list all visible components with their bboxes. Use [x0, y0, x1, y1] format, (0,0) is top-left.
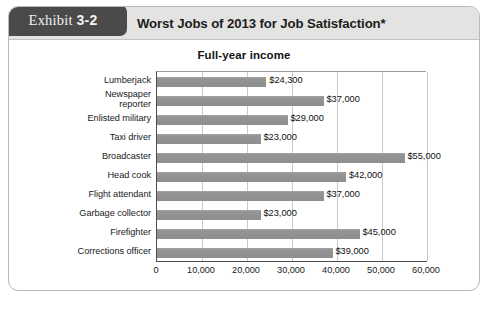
bar-value-label: $39,000 [336, 246, 369, 256]
category-axis: LumberjackNewspaper reporterEnlisted mil… [9, 69, 156, 261]
bar [157, 115, 288, 125]
category-label: Enlisted military [88, 114, 151, 123]
bar-value-label: $37,000 [327, 189, 360, 199]
gridline [427, 72, 428, 261]
bar [157, 248, 333, 258]
x-tick-label: 20,000 [232, 265, 260, 275]
bar [157, 210, 261, 220]
exhibit-tab-label: Exhibit 3-2 [29, 12, 98, 29]
bar [157, 191, 324, 201]
bar-value-label: $55,000 [408, 151, 441, 161]
x-axis-line [156, 261, 427, 262]
exhibit-card: Exhibit 3-2 Worst Jobs of 2013 for Job S… [8, 6, 480, 291]
exhibit-number: 3-2 [77, 12, 98, 28]
category-label: Head cook [108, 171, 151, 180]
bar [157, 77, 266, 87]
category-label: Garbage collector [79, 209, 151, 218]
bar-value-label: $42,000 [349, 170, 382, 180]
x-tick-label: 60,000 [412, 265, 440, 275]
bar-value-label: $37,000 [327, 94, 360, 104]
x-tick-label: 40,000 [322, 265, 350, 275]
category-label: Newspaper reporter [105, 90, 151, 109]
category-label: Lumberjack [104, 76, 151, 85]
chart-title: Full-year income [9, 49, 479, 61]
x-tick-label: 0 [153, 265, 158, 275]
bar [157, 153, 405, 163]
category-label: Flight attendant [88, 190, 151, 199]
bar [157, 172, 346, 182]
exhibit-figure: Exhibit 3-2 Worst Jobs of 2013 for Job S… [0, 0, 496, 311]
category-label: Firefighter [110, 228, 151, 237]
bar-value-label: $45,000 [363, 227, 396, 237]
x-tick-label: 30,000 [277, 265, 305, 275]
exhibit-title: Worst Jobs of 2013 for Job Satisfaction* [137, 7, 386, 40]
bar-value-label: $29,000 [291, 113, 324, 123]
x-tick-label: 50,000 [367, 265, 395, 275]
x-tick-label: 10,000 [187, 265, 215, 275]
exhibit-word: Exhibit [29, 12, 73, 28]
bar [157, 229, 360, 239]
category-label: Broadcaster [102, 152, 151, 161]
bar-value-label: $23,000 [264, 208, 297, 218]
bar-value-label: $23,000 [264, 132, 297, 142]
bar [157, 134, 261, 144]
exhibit-header: Exhibit 3-2 Worst Jobs of 2013 for Job S… [9, 7, 479, 40]
exhibit-tab: Exhibit 3-2 [8, 6, 127, 36]
category-label: Corrections officer [78, 247, 151, 256]
bar [157, 96, 324, 106]
chart-plot: LumberjackNewspaper reporterEnlisted mil… [9, 69, 480, 289]
category-label: Taxi driver [110, 133, 151, 142]
bar-value-label: $24,300 [269, 75, 302, 85]
